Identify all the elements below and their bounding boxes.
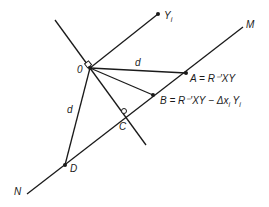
label-b: B = R⁻′XY − Δxi Yi: [160, 95, 241, 108]
point-b: [151, 93, 155, 97]
line-o-d: [65, 68, 90, 165]
line-o-a: [90, 68, 186, 73]
label-d-oa: d: [135, 57, 141, 68]
point-o: [88, 66, 92, 70]
point-a: [184, 71, 188, 75]
label-o: 0: [77, 64, 83, 75]
label-n: N: [14, 186, 22, 197]
label-m: M: [246, 19, 255, 30]
point-d: [63, 163, 67, 167]
right-angle-mark-c: [122, 109, 127, 114]
label-a: A = R⁻′XY: [189, 73, 236, 84]
label-c: C: [119, 121, 127, 132]
geometry-diagram: 0 Yi A = R⁻′XY B = R⁻′XY − Δxi Yi C D M …: [0, 0, 269, 207]
label-d-od: d: [67, 104, 73, 115]
point-yi: [156, 12, 160, 16]
line-o-yi: [90, 14, 158, 68]
label-yi: Yi: [164, 10, 173, 23]
label-d: D: [70, 163, 77, 174]
line-perpendicular-oc: [55, 20, 146, 145]
line-mn: [27, 27, 243, 194]
